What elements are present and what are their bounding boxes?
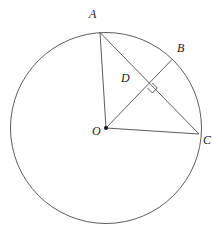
segment-oa	[100, 33, 106, 129]
point-label-b: B	[177, 42, 184, 54]
point-label-o: O	[92, 125, 101, 137]
point-label-d: D	[121, 72, 130, 84]
right-angle-marker-icon	[148, 83, 158, 93]
geometry-canvas	[0, 0, 223, 231]
segment-oc	[106, 128, 199, 134]
geometry-figure: A B C D O	[0, 0, 223, 231]
point-label-c: C	[203, 134, 211, 146]
point-label-a: A	[89, 8, 96, 20]
center-point-dot	[104, 126, 108, 130]
segment-ob	[106, 60, 172, 129]
